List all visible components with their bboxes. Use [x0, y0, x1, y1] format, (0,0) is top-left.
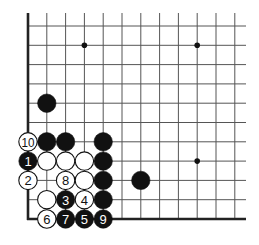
black-stone-5: 5	[75, 210, 93, 228]
white-stone	[38, 152, 56, 170]
stone-circle	[94, 133, 112, 151]
white-stone-8: 8	[56, 171, 74, 189]
white-stone	[75, 152, 93, 170]
stone-circle	[38, 191, 56, 209]
black-stone-3: 3	[56, 191, 74, 209]
black-stone	[94, 133, 112, 151]
move-number: 3	[62, 193, 69, 208]
black-stone	[38, 94, 56, 112]
move-number: 7	[62, 212, 69, 227]
black-stone	[94, 171, 112, 189]
move-number: 6	[43, 212, 50, 227]
black-stone-1: 1	[19, 152, 37, 170]
move-number: 10	[22, 135, 35, 150]
star-point	[194, 43, 200, 49]
go-board: 10128346759	[0, 0, 259, 245]
board-grid	[27, 13, 246, 220]
black-stone-9: 9	[94, 210, 112, 228]
stone-circle	[75, 171, 93, 189]
white-stone-6: 6	[38, 210, 56, 228]
black-stone	[94, 152, 112, 170]
white-stone-2: 2	[19, 171, 37, 189]
move-number: 2	[24, 173, 31, 188]
stone-circle	[75, 152, 93, 170]
white-stone	[75, 171, 93, 189]
white-stone	[38, 191, 56, 209]
stone-circle	[132, 171, 150, 189]
move-number: 9	[100, 212, 107, 227]
stone-circle	[94, 152, 112, 170]
black-stone	[56, 133, 74, 151]
move-number: 4	[81, 193, 88, 208]
stone-circle	[94, 171, 112, 189]
stone-circle	[38, 152, 56, 170]
stone-circle	[38, 133, 56, 151]
star-point	[82, 43, 88, 49]
black-stone-7: 7	[56, 210, 74, 228]
stone-circle	[56, 133, 74, 151]
white-stone-10: 10	[19, 133, 37, 151]
move-number: 1	[24, 154, 31, 169]
white-stone	[56, 152, 74, 170]
stone-circle	[94, 191, 112, 209]
black-stone	[132, 171, 150, 189]
move-number: 8	[62, 173, 69, 188]
stone-circle	[38, 94, 56, 112]
move-number: 5	[81, 212, 88, 227]
star-point	[194, 158, 200, 164]
white-stone-4: 4	[75, 191, 93, 209]
stone-circle	[56, 152, 74, 170]
black-stone	[38, 133, 56, 151]
black-stone	[94, 191, 112, 209]
